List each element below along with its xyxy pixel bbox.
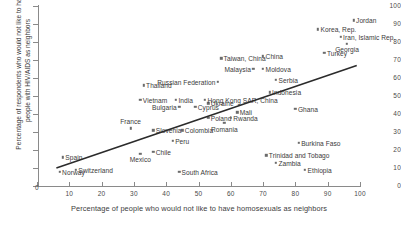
- scatter-chart: 0102030405060708090100 01020304050607080…: [0, 0, 401, 227]
- x-axis-title: Percentage of people who would not like …: [37, 204, 361, 213]
- trend-line: [0, 0, 401, 227]
- y-axis-title: Percentage of respondents who would not …: [15, 0, 32, 156]
